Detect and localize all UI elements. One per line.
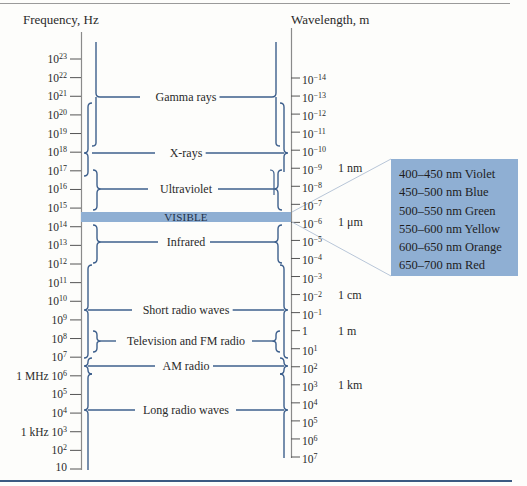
frequency-tick-label: 104 bbox=[52, 405, 68, 419]
frequency-tick-label: 1020 bbox=[48, 107, 68, 121]
wavelength-tick-label: 10−5 bbox=[302, 234, 322, 248]
gamma-left-bracket bbox=[92, 42, 140, 146]
band-label: Gamma rays bbox=[153, 91, 220, 104]
ultraviolet-left-bracket bbox=[93, 170, 101, 210]
frequency-tick-label: 1013 bbox=[48, 237, 68, 251]
frequency-tick-label: 1015 bbox=[48, 200, 68, 214]
wavelength-unit-label: 1 μm bbox=[338, 216, 363, 228]
wavelength-tick-label: 101 bbox=[302, 343, 318, 357]
wavelength-tick-marks bbox=[291, 78, 300, 457]
frequency-tick-label: 107 bbox=[52, 349, 68, 363]
band-label: Ultraviolet bbox=[157, 183, 215, 196]
wavelength-unit-label: 1 nm bbox=[338, 162, 362, 174]
long-radio-right-bracket bbox=[280, 374, 288, 458]
frequency-tick-label: 109 bbox=[52, 312, 68, 326]
frequency-tick-label: 1010 bbox=[48, 293, 68, 307]
band-label: Long radio waves bbox=[140, 404, 232, 417]
wavelength-tick-label: 10−2 bbox=[302, 289, 322, 303]
xray-left-bracket bbox=[84, 103, 92, 172]
band-label: Infrared bbox=[164, 236, 209, 249]
wavelength-tick-label: 107 bbox=[302, 451, 318, 465]
wavelength-tick-label: 10−13 bbox=[302, 90, 326, 104]
visible-band-label: VISIBLE bbox=[164, 211, 208, 223]
wavelength-tick-label: 10−11 bbox=[302, 126, 326, 140]
frequency-tick-marks bbox=[70, 59, 81, 469]
frequency-tick-label: 1017 bbox=[48, 163, 68, 177]
frequency-tick-label: 1 MHz 106 bbox=[16, 368, 67, 382]
wavelength-tick-label: 10−3 bbox=[302, 271, 322, 285]
wavelength-tick-label: 104 bbox=[302, 397, 318, 411]
frequency-tick-label: 1023 bbox=[48, 51, 68, 65]
visible-color-row: 450–500 nm Blue bbox=[399, 183, 518, 201]
xray-right-bracket bbox=[280, 103, 288, 172]
ultraviolet-right-bracket bbox=[274, 170, 282, 210]
long-radio-left-bracket bbox=[84, 374, 92, 470]
wavelength-tick-label: 10−6 bbox=[302, 216, 322, 230]
visible-color-row: 400–450 nm Violet bbox=[399, 165, 518, 183]
frequency-tick-label: 1019 bbox=[48, 126, 68, 140]
frequency-tick-label: 1016 bbox=[48, 181, 68, 195]
frequency-tick-label: 1021 bbox=[48, 88, 68, 102]
wavelength-tick-label: 10−9 bbox=[302, 162, 322, 176]
wavelength-tick-label: 102 bbox=[302, 361, 318, 375]
short-radio-right-bracket bbox=[280, 265, 288, 358]
wavelength-tick-label: 106 bbox=[302, 433, 318, 447]
frequency-tick-label: 1 kHz 103 bbox=[21, 424, 67, 438]
bottom-rule bbox=[0, 480, 512, 482]
frequency-tick-label: 10 bbox=[56, 461, 68, 473]
frequency-tick-label: 1012 bbox=[48, 256, 68, 270]
wavelength-tick-label: 103 bbox=[302, 379, 318, 393]
infrared-left-bracket bbox=[93, 225, 101, 263]
wavelength-tick-label: 10−12 bbox=[302, 108, 326, 122]
frequency-tick-label: 105 bbox=[52, 386, 68, 400]
wavelength-tick-label: 1 bbox=[302, 325, 308, 337]
visible-color-row: 600–650 nm Orange bbox=[399, 238, 518, 256]
frequency-tick-label: 102 bbox=[52, 442, 68, 456]
wavelength-unit-label: 1 cm bbox=[338, 289, 362, 301]
visible-color-row: 650–700 nm Red bbox=[399, 256, 518, 274]
tv-fm-right-bracket bbox=[272, 331, 280, 352]
wavelength-tick-label: 10−1 bbox=[302, 307, 322, 321]
band-label: X-rays bbox=[167, 147, 206, 160]
wavelength-tick-label: 10−10 bbox=[302, 144, 326, 158]
short-radio-left-bracket bbox=[84, 265, 92, 358]
visible-colors-box: 400–450 nm Violet450–500 nm Blue500–550 … bbox=[391, 159, 518, 276]
frequency-tick-label: 1022 bbox=[48, 70, 68, 84]
wavelength-tick-label: 10−8 bbox=[302, 180, 322, 194]
wavelength-tick-label: 10−14 bbox=[302, 72, 326, 86]
wavelength-unit-label: 1 km bbox=[338, 379, 362, 391]
wavelength-tick-label: 10−7 bbox=[302, 198, 322, 212]
wavelength-unit-label: 1 m bbox=[338, 325, 356, 337]
tv-fm-left-bracket bbox=[93, 331, 101, 352]
wavelength-tick-label: 105 bbox=[302, 415, 318, 429]
infrared-right-bracket bbox=[274, 225, 282, 263]
frequency-tick-label: 108 bbox=[52, 331, 68, 345]
wavelength-tick-label: 10−4 bbox=[302, 252, 322, 266]
frequency-tick-label: 1014 bbox=[48, 219, 68, 233]
band-label: Television and FM radio bbox=[124, 335, 248, 348]
band-label: Short radio waves bbox=[140, 304, 233, 317]
visible-color-row: 550–600 nm Yellow bbox=[399, 220, 518, 238]
frequency-tick-label: 1011 bbox=[48, 275, 67, 289]
frequency-tick-label: 1018 bbox=[48, 144, 68, 158]
band-label: AM radio bbox=[160, 360, 213, 373]
visible-color-row: 500–550 nm Green bbox=[399, 202, 518, 220]
